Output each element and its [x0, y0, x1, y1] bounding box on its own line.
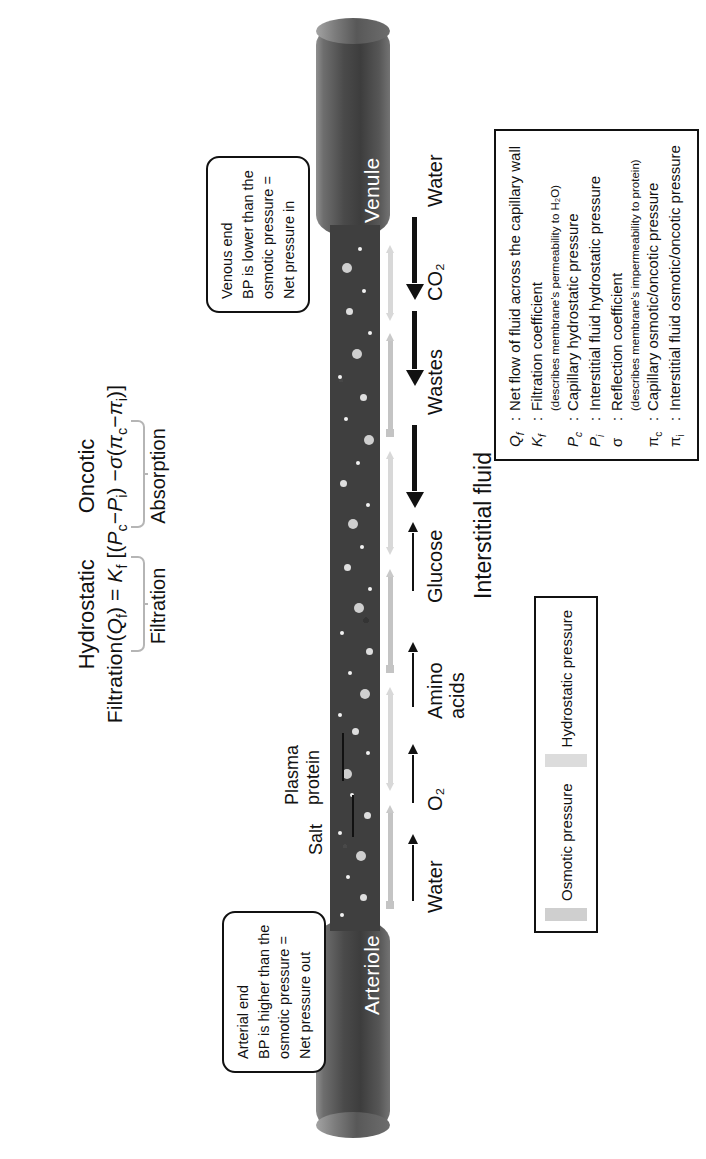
inline-label-salt: Salt	[306, 824, 327, 855]
pressure-key-label-osmotic: Osmotic pressure	[558, 783, 575, 901]
leader-line-plasma-protein	[342, 733, 344, 781]
capillary-texture	[330, 225, 380, 931]
formula-header-oncotic: Oncotic	[74, 439, 100, 514]
starling-equation: Filtration(Qf) = Kf [(Pc−Pi) −σ(πc−πi)]	[103, 344, 130, 764]
arteriole-label: Arteriole	[360, 935, 384, 1015]
rotated-diagram-frame: Arteriole Venule	[0, 0, 706, 1159]
eq-qf-sub: f	[114, 614, 130, 618]
pressure-arrow-osmotic-1	[386, 805, 395, 909]
callout-arterial-end: Arterial end BP is higher than the osmot…	[222, 911, 326, 1073]
eq-pii-sub: i	[114, 398, 130, 401]
brace-label-absorption: Absorption	[147, 428, 170, 524]
legend-row-qf: Qf : Net flow of fluid across the capill…	[505, 145, 527, 447]
eq-open-paren-2: (	[103, 449, 126, 456]
legend-colon-pic: :	[643, 411, 665, 421]
legend-row-sigma: σ : Reflection coefficient	[607, 145, 629, 447]
brace-filtration	[131, 556, 145, 652]
eq-pi-hydro-sub: i	[114, 494, 130, 497]
legend-row-pii: πi : Interstitial fluid osmotic/oncotic …	[665, 145, 687, 447]
legend-colon-pii: :	[665, 411, 687, 421]
callout-venous-line1: Venous end	[217, 170, 238, 299]
legend-text-pii: Interstitial fluid osmotic/oncotic press…	[665, 145, 687, 411]
eq-pic-sub: c	[114, 428, 130, 435]
venule-label: Venule	[360, 158, 384, 223]
substance-label-co2: CO₂	[424, 263, 446, 301]
legend-row-pic: πc : Capillary osmotic/oncotic pressure	[643, 145, 665, 447]
pressure-arrow-hydrostatic-1	[386, 687, 395, 791]
substance-label-amino-acids-text: Amino acids	[424, 662, 468, 719]
callout-venous-line4: Net pressure in	[279, 170, 300, 299]
interstitial-fluid-label: Interstitial fluid	[470, 452, 497, 599]
legend-symbol-pc: Pc	[563, 421, 585, 447]
pressure-key-item-hydrostatic: Hydrostatic pressure	[545, 610, 587, 768]
legend-text-pic: Capillary osmotic/oncotic pressure	[643, 183, 665, 411]
legend-symbol-qf: Qf	[505, 421, 527, 447]
eq-prefix: Filtration(	[103, 635, 126, 724]
starling-equation-block: Hydrostatic Oncotic Filtration(Qf) = Kf …	[74, 344, 147, 764]
eq-open-bracket: [(	[103, 546, 126, 565]
substance-label-glucose: Glucose	[424, 530, 446, 603]
substance-arrow-water-out	[412, 845, 414, 901]
callout-arterial-line3: osmotic pressure =	[274, 925, 295, 1059]
brace-absorption	[131, 420, 145, 528]
legend-note-kf: (describes membrane’s permeability to H₂…	[549, 145, 561, 411]
symbol-legend-box: Qf : Net flow of fluid across the capill…	[494, 129, 699, 461]
eq-kf-symbol: K	[103, 569, 126, 583]
arteriole-end-cap	[316, 1112, 390, 1138]
formula-braces: Filtration Absorption	[131, 344, 147, 764]
legend-symbol-sigma: σ	[607, 421, 629, 447]
legend-text-sigma: Reflection coefficient	[607, 273, 629, 411]
pressure-key-item-osmotic: Osmotic pressure	[545, 783, 587, 921]
legend-colon-sigma: :	[607, 411, 629, 421]
eq-mid: ) −	[103, 469, 126, 494]
legend-note-sigma: (describes membrane’s impermeability to …	[629, 145, 641, 411]
legend-colon-pi: :	[585, 411, 607, 421]
pressure-arrow-osmotic-3	[386, 333, 395, 437]
pressure-arrow-hydrostatic-2	[386, 451, 395, 555]
callout-venous-line2: BP is lower than the	[238, 170, 259, 299]
legend-text-qf: Net flow of fluid across the capillary w…	[505, 146, 527, 411]
legend-text-pc: Capillary hydrostatic pressure	[563, 213, 585, 411]
substance-label-water-out: Water	[424, 860, 446, 913]
diagram-canvas: Arteriole Venule	[0, 0, 706, 1159]
legend-row-kf: Kf : Filtration coefficient	[527, 145, 549, 447]
callout-arterial-line2: BP is higher than the	[254, 925, 275, 1059]
substance-arrow-glucose	[412, 533, 414, 591]
eq-minus-2: −	[103, 415, 126, 427]
legend-colon-kf: :	[527, 411, 549, 421]
swatch-hydrostatic-pressure	[545, 754, 587, 767]
substance-arrow-o2	[412, 755, 414, 803]
capillary-tube	[330, 225, 380, 931]
pressure-arrow-osmotic-2	[386, 569, 395, 673]
substance-arrow-water-in	[412, 217, 417, 283]
legend-symbol-pi: Pi	[585, 421, 607, 447]
inline-label-plasma-protein: Plasmaprotein	[282, 745, 323, 805]
inline-label-plasma: Plasma	[282, 745, 302, 805]
callout-arterial-line1: Arterial end	[233, 925, 254, 1059]
legend-text-pi: Interstitial fluid hydrostatic pressure	[585, 176, 607, 411]
eq-equals: ) =	[103, 583, 126, 614]
legend-row-pi: Pi : Interstitial fluid hydrostatic pres…	[585, 145, 607, 447]
arteriole-vessel: Arteriole	[316, 919, 390, 1133]
eq-minus-1: −	[103, 512, 126, 524]
pressure-arrow-hydrostatic-3	[386, 245, 395, 321]
substance-label-o2: O₂	[424, 788, 446, 811]
legend-colon-qf: :	[505, 411, 527, 421]
legend-symbol-pic: πc	[643, 421, 665, 447]
substance-arrow-co2	[412, 311, 417, 369]
eq-pi-hydro-symbol: P	[103, 498, 126, 512]
inline-label-protein: protein	[303, 750, 323, 805]
legend-symbol-kf: Kf	[527, 421, 549, 447]
leader-line-salt	[352, 795, 354, 837]
legend-row-pc: Pc : Capillary hydrostatic pressure	[563, 145, 585, 447]
legend-text-kf: Filtration coefficient	[527, 282, 549, 411]
substance-label-wastes: Wastes	[424, 349, 446, 415]
formula-header-hydrostatic: Hydrostatic	[74, 559, 100, 669]
eq-pc-symbol: P	[103, 531, 126, 545]
eq-pii-symbol: π	[103, 401, 126, 415]
callout-arterial-line4: Net pressure out	[295, 925, 316, 1059]
pressure-key-box: Osmotic pressure Hydrostatic pressure	[534, 596, 598, 933]
eq-close-bracket: )]	[103, 385, 126, 398]
substance-label-amino-acids: Amino acids	[424, 633, 468, 719]
eq-pic-symbol: π	[103, 435, 126, 449]
